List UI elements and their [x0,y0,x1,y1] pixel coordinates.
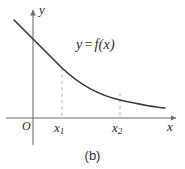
origin-label: O [22,120,31,132]
figure-container: y x O x1 x2 y=f(x) (b) [0,0,185,169]
function-equation-label: y=f(x) [76,38,115,52]
function-curve [14,20,165,108]
figure-caption: (b) [0,148,185,163]
x-axis-label: x [167,120,173,133]
tick-label-x2: x2 [112,121,122,134]
tick-label-x1-base: x [54,120,60,135]
tick-label-x2-base: x [112,120,118,135]
tick-label-x1-subscript: 1 [60,126,65,136]
tick-label-x1: x1 [54,121,64,134]
tick-label-x2-subscript: 2 [118,126,123,136]
function-operator: = [82,37,94,52]
function-rhs: f(x) [95,37,115,52]
plot-canvas [0,0,185,169]
y-axis-label: y [39,3,45,16]
